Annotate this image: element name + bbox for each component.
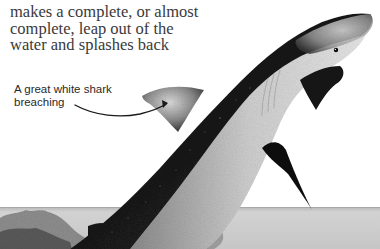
body-line: water and splashes back xyxy=(10,37,220,54)
figure-caption: A great white shark breaching xyxy=(14,83,112,109)
caption-line: breaching xyxy=(14,96,112,109)
body-paragraph: makes a complete, or almost complete, le… xyxy=(10,4,220,54)
caption-line: A great white shark xyxy=(14,83,112,96)
textbook-page: makes a complete, or almost complete, le… xyxy=(0,0,380,249)
